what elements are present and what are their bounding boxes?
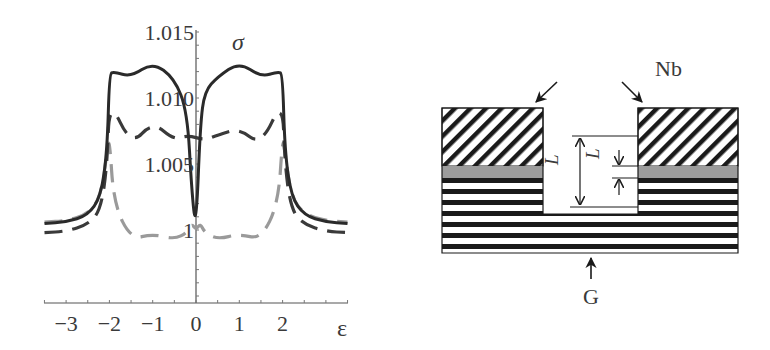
nb-right-arrow: [622, 82, 642, 102]
nb-left-electrode: [442, 108, 543, 166]
chart-axes: [44, 30, 348, 303]
x-tick-label: 2: [277, 311, 288, 336]
y-tick-label: 1.005: [145, 152, 195, 177]
chart-canvas: −3−2−101211.0051.0101.015 σ ε: [0, 0, 380, 350]
gray-interlayer-left: [442, 166, 543, 178]
x-tick-label: −3: [54, 311, 77, 336]
chart-tick-labels: −3−2−101211.0051.0101.015: [54, 20, 288, 336]
sigma-vs-epsilon-chart: −3−2−101211.0051.0101.015 σ ε: [0, 0, 380, 350]
x-tick-label: 0: [191, 311, 202, 336]
y-tick-label: 1.010: [145, 86, 195, 111]
diagram-canvas: L L Nb G: [380, 0, 770, 350]
y-axis-label: σ: [232, 29, 245, 55]
x-tick-label: 1: [234, 311, 245, 336]
g-label: G: [583, 284, 599, 309]
y-tick-label: 1: [183, 218, 194, 243]
nb-left-arrow: [536, 82, 557, 102]
x-tick-label: −1: [141, 311, 164, 336]
x-axis-label: ε: [337, 315, 347, 341]
gray-interlayer-right: [638, 166, 738, 178]
y-tick-label: 1.015: [145, 20, 195, 45]
nb-label: Nb: [655, 56, 682, 81]
trench: [543, 160, 638, 214]
dimension-label-inner: L: [582, 148, 603, 160]
nb-right-electrode: [638, 108, 738, 166]
junction-cross-section-diagram: L L Nb G: [380, 0, 770, 350]
x-tick-label: −2: [98, 311, 121, 336]
dimension-label-outer: L: [541, 154, 562, 166]
